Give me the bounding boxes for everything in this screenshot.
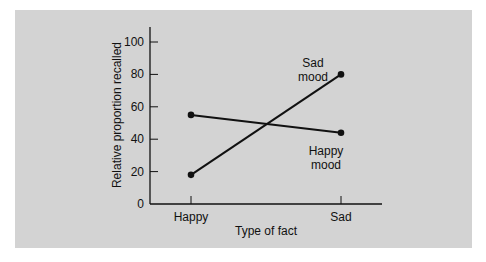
y-tick-label: 100 [124, 35, 144, 49]
line-chart: 020406080100HappySad Type of factRelativ… [0, 0, 486, 262]
y-tick-label: 60 [131, 100, 145, 114]
series-annotation: mood [298, 70, 328, 84]
labels-group: Type of factRelative proportion recalled… [110, 42, 343, 238]
x-axis-title: Type of fact [235, 224, 298, 238]
x-tick-label: Happy [174, 210, 209, 224]
series-annotation: Sad [302, 56, 323, 70]
x-tick-label: Sad [330, 210, 351, 224]
data-point [338, 71, 345, 78]
series-annotation: mood [311, 158, 341, 172]
data-point [188, 172, 195, 179]
axes: 020406080100HappySad [124, 27, 382, 224]
series-annotation: Happy [309, 144, 344, 158]
y-tick-label: 20 [131, 165, 145, 179]
y-tick-label: 0 [137, 197, 144, 211]
y-tick-label: 80 [131, 67, 145, 81]
data-point [338, 129, 345, 136]
data-point [188, 112, 195, 119]
y-axis-title: Relative proportion recalled [110, 42, 124, 188]
y-tick-label: 40 [131, 132, 145, 146]
